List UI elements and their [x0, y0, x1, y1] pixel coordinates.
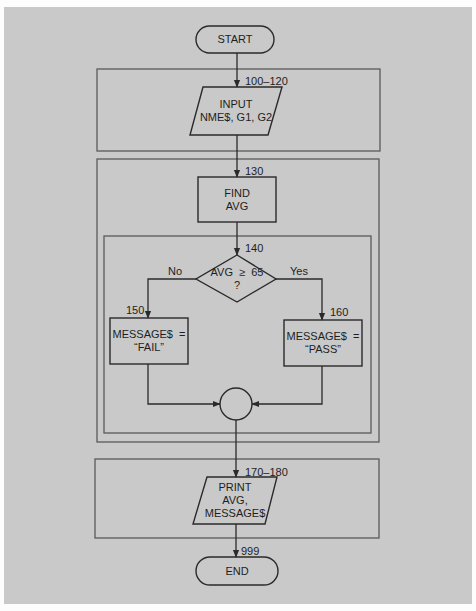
edge-fail-connector	[148, 364, 220, 404]
no-branch-label: No	[168, 265, 182, 277]
input-text-line-1: INPUT	[220, 98, 253, 111]
edge-decision-fail	[148, 279, 196, 318]
find-avg-label: FIND AVG	[198, 177, 276, 222]
print-text-line-3: MESSAGE$	[205, 507, 266, 520]
decision-text-line-1: AVG ≥ 65	[211, 266, 264, 279]
pass-text-line-1: MESSAGE$ =	[286, 330, 359, 343]
yes-branch-label: Yes	[290, 265, 308, 277]
pass-label: MESSAGE$ = “PASS”	[284, 320, 362, 366]
start-label: START	[196, 26, 274, 53]
end-label: END	[196, 557, 278, 585]
print-text-line-2: AVG,	[222, 494, 247, 507]
start-text: START	[217, 33, 252, 46]
decision-line-label: 140	[245, 242, 263, 254]
input-label: INPUT NME$, G1, G2	[196, 87, 276, 135]
fail-label: MESSAGE$ = “FAIL”	[110, 318, 188, 364]
connector-circle	[220, 388, 252, 420]
end-line-label: 999	[241, 545, 259, 557]
edge-pass-connector	[252, 366, 322, 404]
print-label: PRINT AVG, MESSAGE$	[198, 477, 272, 524]
find-avg-text-line-1: FIND	[224, 187, 250, 200]
input-line-label: 100–120	[245, 75, 288, 87]
fail-line-label: 150	[126, 304, 144, 316]
end-text: END	[225, 565, 248, 578]
edge-decision-pass	[276, 279, 322, 320]
input-text-line-2: NME$, G1, G2	[200, 111, 272, 124]
fail-text-line-1: MESSAGE$ =	[112, 328, 185, 341]
pass-text-line-2: “PASS”	[305, 343, 341, 356]
fail-text-line-2: “FAIL”	[134, 341, 164, 354]
find-avg-text-line-2: AVG	[226, 200, 248, 213]
find-avg-line-label: 130	[245, 165, 263, 177]
decision-label: AVG ≥ 65 ?	[200, 262, 274, 296]
print-text-line-1: PRINT	[219, 481, 252, 494]
decision-text-line-2: ?	[234, 279, 240, 292]
pass-line-label: 160	[330, 306, 348, 318]
